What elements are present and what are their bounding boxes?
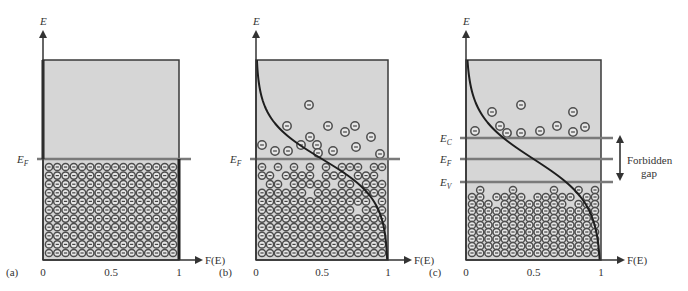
- electron: [112, 206, 119, 213]
- electron: [298, 172, 305, 179]
- electron: [282, 206, 289, 213]
- electron: [169, 198, 176, 205]
- electron: [258, 215, 265, 222]
- electron: [477, 221, 484, 228]
- electron: [583, 193, 590, 200]
- electron: [45, 241, 52, 248]
- electron: [322, 198, 329, 205]
- electron: [575, 221, 582, 228]
- electron: [493, 249, 500, 256]
- electron: [477, 207, 484, 214]
- electron: [54, 189, 61, 196]
- electron: [120, 172, 127, 179]
- electron: [145, 232, 152, 239]
- panel-b: EFEF(E)00.51(b): [219, 15, 435, 279]
- electron: [569, 128, 577, 136]
- electron: [290, 249, 297, 256]
- electron: [282, 232, 289, 239]
- tick-label: 0.5: [315, 266, 329, 278]
- electron: [346, 215, 353, 222]
- electron: [266, 232, 273, 239]
- electron: [274, 224, 281, 231]
- electron: [169, 206, 176, 213]
- electron: [120, 181, 127, 188]
- panel-tag-c: (c): [429, 266, 442, 279]
- electron: [112, 232, 119, 239]
- electron: [274, 181, 281, 188]
- electron: [290, 189, 297, 196]
- electron: [290, 206, 297, 213]
- electron: [274, 249, 281, 256]
- electron: [70, 163, 77, 170]
- electron: [324, 122, 332, 130]
- electron: [128, 163, 135, 170]
- electron: [78, 172, 85, 179]
- electron: [103, 198, 110, 205]
- electron: [322, 181, 329, 188]
- electron: [526, 207, 533, 214]
- electron: [518, 193, 525, 200]
- electron: [78, 215, 85, 222]
- electron: [258, 163, 265, 170]
- electron: [346, 224, 353, 231]
- electron: [362, 206, 369, 213]
- electron: [485, 207, 492, 214]
- electron: [136, 189, 143, 196]
- electron: [496, 122, 504, 130]
- electron: [306, 215, 313, 222]
- electron: [169, 232, 176, 239]
- energy-axis-label: E: [462, 15, 470, 27]
- electron: [70, 249, 77, 256]
- electron: [161, 163, 168, 170]
- electron: [370, 163, 377, 170]
- electron: [290, 181, 297, 188]
- electron: [306, 163, 313, 170]
- electron: [534, 242, 541, 249]
- electron: [306, 249, 313, 256]
- electron: [128, 189, 135, 196]
- electron: [509, 249, 516, 256]
- electron: [266, 181, 273, 188]
- electron: [136, 163, 143, 170]
- electron: [559, 235, 566, 242]
- electron: [112, 224, 119, 231]
- electron: [45, 163, 52, 170]
- electron: [559, 221, 566, 228]
- electron: [534, 200, 541, 207]
- electron: [169, 163, 176, 170]
- electron: [477, 193, 484, 200]
- electron: [559, 193, 566, 200]
- electron: [70, 198, 77, 205]
- electron: [534, 249, 541, 256]
- electron: [378, 181, 385, 188]
- electron: [501, 207, 508, 214]
- electron: [477, 235, 484, 242]
- electron: [471, 127, 479, 135]
- electron: [169, 172, 176, 179]
- electron: [283, 122, 291, 130]
- electron: [354, 189, 361, 196]
- electron: [575, 228, 582, 235]
- electron: [591, 249, 598, 256]
- electron: [282, 249, 289, 256]
- electron: [298, 206, 305, 213]
- electron: [509, 228, 516, 235]
- electron: [314, 181, 321, 188]
- electron: [550, 242, 557, 249]
- electron: [78, 241, 85, 248]
- electron: [62, 206, 69, 213]
- electron: [477, 242, 484, 249]
- electron: [87, 206, 94, 213]
- electron: [550, 207, 557, 214]
- electron: [290, 198, 297, 205]
- electron: [526, 235, 533, 242]
- electron: [322, 249, 329, 256]
- electron: [346, 189, 353, 196]
- electron: [362, 215, 369, 222]
- electron: [362, 249, 369, 256]
- electron: [536, 127, 544, 135]
- electron: [362, 232, 369, 239]
- electron: [518, 228, 525, 235]
- electron: [95, 249, 102, 256]
- electron: [542, 200, 549, 207]
